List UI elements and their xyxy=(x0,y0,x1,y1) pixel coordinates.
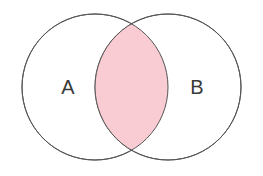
venn-diagram: A B xyxy=(0,0,263,176)
set-b-label: B xyxy=(190,76,203,98)
set-a-label: A xyxy=(61,76,75,98)
venn-diagram-svg: A B xyxy=(0,0,263,176)
